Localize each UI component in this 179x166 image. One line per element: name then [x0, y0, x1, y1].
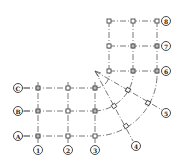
- column-a1: [36, 134, 40, 138]
- axis-label-c: C: [16, 85, 21, 92]
- column-83: [155, 19, 159, 23]
- column-c2: [66, 86, 70, 90]
- column-b2: [66, 109, 70, 113]
- column-c1: [36, 86, 40, 90]
- axis-label-a: A: [15, 133, 21, 140]
- column-72: [131, 44, 135, 48]
- column-a2: [66, 134, 70, 138]
- axis-label-b: B: [15, 108, 20, 115]
- column-a3: [93, 134, 97, 138]
- axis-label-4: 4: [134, 143, 138, 150]
- column-81: [107, 19, 111, 23]
- axis-label-7: 7: [164, 43, 168, 50]
- column-61: [107, 69, 111, 73]
- axis-label-8: 8: [164, 18, 168, 25]
- axis-label-6: 6: [164, 68, 168, 75]
- axis-label-1: 1: [36, 147, 40, 154]
- axis-label-5: 5: [164, 110, 168, 117]
- column-arc-1: [125, 87, 130, 92]
- axis-label-3: 3: [93, 147, 97, 154]
- arc-axis-small: [95, 71, 109, 88]
- axis-label-2: 2: [66, 147, 70, 154]
- column-b3: [93, 109, 97, 113]
- column-62: [131, 69, 135, 73]
- column-71: [107, 44, 111, 48]
- column-73: [155, 44, 159, 48]
- column-63: [155, 69, 159, 73]
- axis-grid-diagram: C B A 1 2 3 8 7 6 5 4: [0, 0, 179, 166]
- column-c3: [93, 86, 97, 90]
- column-82: [131, 19, 135, 23]
- column-b1: [36, 109, 40, 113]
